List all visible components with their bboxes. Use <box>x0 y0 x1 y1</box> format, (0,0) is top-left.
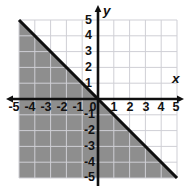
x-tick-label: -3 <box>40 100 51 114</box>
x-tick-label: -5 <box>8 100 19 114</box>
graph-canvas: -5 -4 -3 -2 -1 0 1 2 3 4 5 1 2 3 4 5 -1 … <box>0 0 188 191</box>
x-tick-label: -4 <box>24 100 35 114</box>
x-tick-label: 3 <box>143 100 150 114</box>
y-tick-label: -3 <box>84 139 95 153</box>
x-tick-label: -2 <box>56 100 67 114</box>
x-tick-label: 4 <box>158 100 165 114</box>
x-tick-label: 2 <box>127 100 134 114</box>
y-tick-label: -4 <box>84 155 95 169</box>
y-tick-label: 5 <box>85 13 92 27</box>
y-tick-label: 4 <box>85 28 92 42</box>
coordinate-graph: -5 -4 -3 -2 -1 0 1 2 3 4 5 1 2 3 4 5 -1 … <box>0 0 188 191</box>
x-tick-label: 1 <box>111 100 118 114</box>
x-axis-label: x <box>171 71 180 86</box>
x-tick-label: -1 <box>72 100 83 114</box>
y-tick-label: 2 <box>85 60 92 74</box>
x-tick-label: 5 <box>173 100 180 114</box>
y-axis-label: y <box>102 3 112 18</box>
y-tick-label: -2 <box>84 123 95 137</box>
y-tick-label: 3 <box>85 44 92 58</box>
y-tick-label: -5 <box>84 170 95 184</box>
y-tick-label: 1 <box>85 76 92 90</box>
y-tick-label: -1 <box>84 107 95 121</box>
